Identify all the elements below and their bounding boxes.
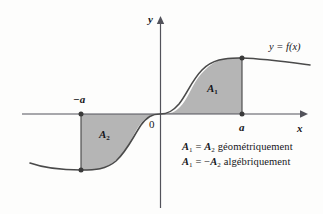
annotation-2-words: algébriquement [224,156,291,167]
origin-label: 0 [149,119,155,130]
region-label-A1: A1 [207,83,218,94]
region-label-A2: A2 [99,129,110,140]
marker-neg-a-on-curve [79,168,84,173]
region-label-A1-subscript: 1 [214,88,218,96]
annotation-1-right-sub: 2 [211,146,215,154]
y-axis-label: y [148,14,153,25]
figure-container: y x 0 −a a A1 A2 y = f(x) A1 = A2 géomét… [0,0,323,214]
y-axis [157,16,164,208]
tick-label-positive-a: a [239,122,245,133]
x-axis-label: x [297,123,303,134]
annotation-2-left-sub: 1 [189,161,193,169]
annotation-2-relation: = [195,156,201,167]
marker-neg-a-on-axis [79,112,84,117]
annotation-1-relation: = [195,141,201,152]
tick-label-negative-a: −a [73,94,85,105]
curve-label: y = f(x) [269,42,301,53]
annotation-geometric: A1 = A2 géométriquement [182,142,293,153]
annotation-1-words: géométriquement [218,141,293,152]
annotation-1-left-sub: 1 [189,146,193,154]
annotation-algebraic: A1 = −A2 algébriquement [182,157,290,168]
function-area-diagram [0,0,323,214]
marker-pos-a-on-axis [240,112,245,117]
region-label-A2-subscript: 2 [106,134,110,142]
annotation-2-right-sub: 2 [217,161,221,169]
marker-pos-a-on-curve [240,56,245,61]
shaded-region-A1 [160,58,242,114]
